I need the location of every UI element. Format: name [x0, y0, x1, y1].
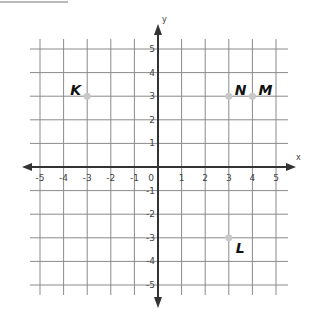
- x-tick-label: -3: [83, 173, 92, 183]
- y-tick-label: -4: [146, 256, 155, 266]
- y-tick-label: -1: [146, 186, 155, 196]
- x-tick-label: 5: [273, 173, 279, 183]
- point-k: [84, 93, 91, 100]
- x-tick-label: -4: [59, 173, 68, 183]
- point-n: [225, 93, 232, 100]
- point-m: [249, 93, 256, 100]
- coordinate-plane: xy -5-4-3-2-101234554321-1-2-3-4-5 KNML: [0, 0, 316, 322]
- arrow-left-icon: [22, 163, 32, 171]
- x-tick-label: 1: [179, 173, 185, 183]
- y-tick-label: -5: [146, 280, 155, 290]
- x-tick-label: -1: [130, 173, 139, 183]
- x-tick-label: -5: [36, 173, 45, 183]
- y-tick-label: 4: [149, 68, 155, 78]
- y-tick-label: 5: [149, 44, 155, 54]
- arrow-down-icon: [154, 297, 162, 308]
- x-tick-label: -2: [106, 173, 115, 183]
- x-tick-label: 2: [202, 173, 208, 183]
- y-tick-label: 2: [149, 115, 155, 125]
- x-axis-label: x: [296, 153, 301, 162]
- point-label-n: N: [235, 82, 247, 98]
- point-label-l: L: [236, 240, 245, 256]
- arrow-up-icon: [154, 24, 162, 35]
- x-tick-label: 4: [250, 173, 256, 183]
- arrow-right-icon: [286, 163, 296, 171]
- x-tick-label: 0: [148, 173, 154, 183]
- y-tick-label: -2: [146, 209, 155, 219]
- y-axis-label: y: [162, 15, 167, 24]
- y-tick-label: -3: [146, 233, 155, 243]
- x-tick-label: 3: [226, 173, 232, 183]
- y-tick-label: 3: [149, 91, 155, 101]
- y-tick-label: 1: [149, 138, 155, 148]
- point-l: [225, 234, 232, 241]
- data-points: KNML: [70, 82, 272, 256]
- point-label-m: M: [258, 82, 272, 98]
- point-label-k: K: [70, 82, 82, 98]
